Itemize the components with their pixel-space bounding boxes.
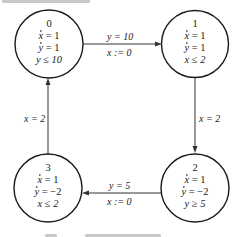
flow-x: x = 1 — [161, 30, 229, 42]
state-id: 2 — [161, 162, 229, 174]
edge-2-to-3 — [82, 191, 161, 196]
edge-3-to-0 — [46, 78, 51, 154]
edge-0-to-1 — [83, 42, 162, 47]
state-3: 3 x = 1 y = −2 x ≤ 2 — [14, 162, 82, 210]
arrow-icon — [193, 146, 198, 153]
state-1: 1 x = 1 y = 1 x ≤ 2 — [161, 18, 229, 66]
edge-2-3-reset: x := 0 — [107, 196, 132, 207]
flow-y: y = −2 — [161, 186, 229, 198]
state-id: 1 — [161, 18, 229, 30]
flow-y: y = −2 — [14, 186, 82, 198]
invariant: y ≤ 10 — [15, 54, 83, 66]
invariant: y ≥ 5 — [161, 198, 229, 210]
edge-2-3-guard: y = 5 — [109, 180, 130, 191]
state-0: 0 x = 1 y = 1 y ≤ 10 — [15, 18, 83, 66]
arrow-icon — [46, 78, 51, 85]
flow-x: x = 1 — [161, 174, 229, 186]
edge-3-0-guard: x = 2 — [24, 113, 45, 124]
state-id: 0 — [15, 18, 83, 30]
flow-y: y = 1 — [161, 42, 229, 54]
flow-y: y = 1 — [15, 42, 83, 54]
invariant: x ≤ 2 — [14, 198, 82, 210]
flow-x: x = 1 — [15, 30, 83, 42]
edge-1-to-2 — [193, 78, 198, 153]
state-2: 2 x = 1 y = −2 y ≥ 5 — [161, 162, 229, 210]
edge-0-1-guard: y = 10 — [107, 31, 133, 42]
edge-0-1-reset: x := 0 — [107, 47, 132, 58]
state-id: 3 — [14, 162, 82, 174]
edge-1-2-guard: x = 2 — [199, 113, 220, 124]
arrow-icon — [82, 191, 89, 196]
invariant: x ≤ 2 — [161, 54, 229, 66]
flow-x: x = 1 — [14, 174, 82, 186]
